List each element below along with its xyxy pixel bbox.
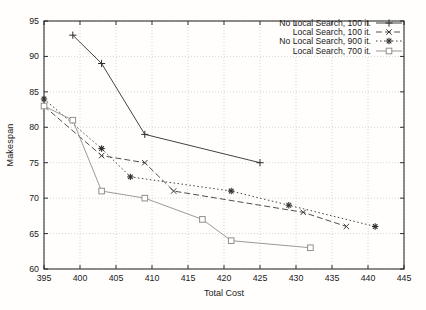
legend: No Local Search, 100 it.Local Search, 10… bbox=[279, 18, 402, 56]
x-axis-title: Total Cost bbox=[204, 288, 244, 298]
marker-plus-icon bbox=[385, 19, 392, 26]
x-tick-label: 430 bbox=[289, 273, 304, 283]
marker-asterisk-icon bbox=[98, 145, 104, 151]
x-tick-label: 395 bbox=[37, 273, 52, 283]
marker-cross-icon bbox=[344, 224, 349, 229]
series-line-1 bbox=[44, 106, 346, 226]
x-tick-label: 410 bbox=[145, 273, 160, 283]
x-tick-label: 415 bbox=[181, 273, 196, 283]
legend-item: No Local Search, 900 it. bbox=[279, 37, 402, 46]
x-tick-label: 445 bbox=[397, 273, 412, 283]
marker-square-icon bbox=[386, 48, 392, 54]
x-tick-label: 425 bbox=[253, 273, 268, 283]
legend-item: Local Search, 100 it. bbox=[279, 27, 402, 36]
marker-square-icon bbox=[142, 195, 148, 201]
marker-asterisk-icon bbox=[386, 38, 392, 44]
series-line-0 bbox=[73, 35, 260, 163]
x-tick-label: 440 bbox=[361, 273, 376, 283]
marker-asterisk-icon bbox=[228, 188, 234, 194]
marker-square-icon bbox=[41, 103, 47, 109]
legend-label: Local Search, 700 it. bbox=[293, 46, 371, 56]
y-tick-label: 75 bbox=[29, 158, 39, 168]
marker-square-icon bbox=[200, 217, 206, 223]
y-tick-label: 85 bbox=[29, 87, 39, 97]
marker-plus-icon bbox=[141, 131, 148, 138]
legend-sample-square-icon bbox=[376, 46, 402, 56]
y-tick-label: 95 bbox=[29, 16, 39, 26]
y-tick-label: 60 bbox=[29, 264, 39, 274]
marker-square-icon bbox=[308, 245, 314, 251]
legend-item: No Local Search, 100 it. bbox=[279, 18, 402, 27]
marker-asterisk-icon bbox=[41, 96, 47, 102]
x-tick-label: 420 bbox=[217, 273, 232, 283]
marker-square-icon bbox=[99, 188, 105, 194]
y-tick-label: 65 bbox=[29, 229, 39, 239]
marker-plus-icon bbox=[256, 159, 263, 166]
marker-asterisk-icon bbox=[127, 174, 133, 180]
marker-asterisk-icon bbox=[372, 223, 378, 229]
marker-square-icon bbox=[70, 117, 76, 123]
x-tick-label: 435 bbox=[325, 273, 340, 283]
makespan-vs-total-cost-chart: 3954004054104154204254304354404456065707… bbox=[0, 0, 426, 310]
y-tick-label: 80 bbox=[29, 122, 39, 132]
y-axis-title: Makespan bbox=[5, 123, 15, 166]
marker-square-icon bbox=[228, 238, 234, 244]
x-tick-label: 400 bbox=[73, 273, 88, 283]
x-tick-label: 405 bbox=[109, 273, 124, 283]
legend-item: Local Search, 700 it. bbox=[279, 46, 402, 55]
y-tick-label: 90 bbox=[29, 51, 39, 61]
marker-asterisk-icon bbox=[286, 202, 292, 208]
y-tick-label: 70 bbox=[29, 193, 39, 203]
